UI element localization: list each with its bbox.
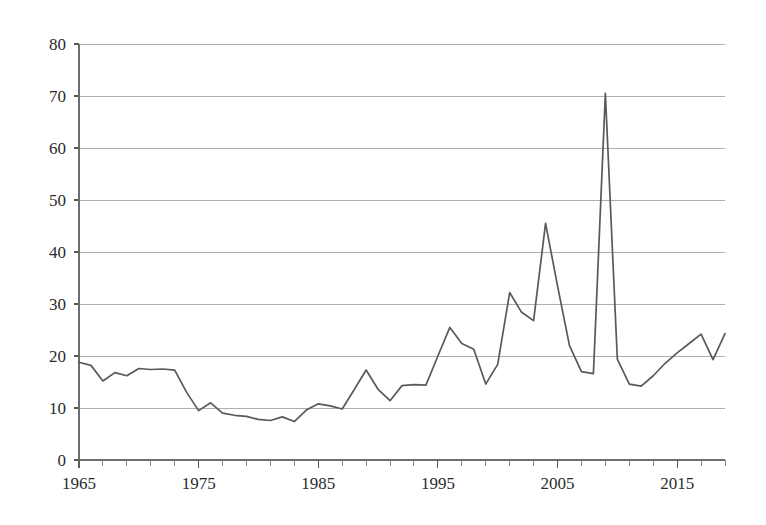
y-tick-label-40: 40 <box>49 243 66 262</box>
y-tick-label-20: 20 <box>49 347 66 366</box>
y-tick-label-60: 60 <box>49 139 66 158</box>
x-tick-label-1985: 1985 <box>301 474 335 493</box>
y-tick-labels-group: 01020304050607080 <box>49 35 66 470</box>
x-tick-label-1965: 1965 <box>62 474 96 493</box>
x-tick-label-1995: 1995 <box>421 474 455 493</box>
x-axis-group <box>79 460 725 468</box>
line-chart: 01020304050607080 1965197519851995200520… <box>0 0 766 525</box>
series-group <box>79 93 725 421</box>
x-tick-labels-group: 196519751985199520052015 <box>62 474 694 493</box>
x-tick-label-1975: 1975 <box>182 474 216 493</box>
gridlines-group <box>79 44 725 408</box>
y-tick-label-80: 80 <box>49 35 66 54</box>
series-line-1 <box>79 93 725 421</box>
y-axis-group <box>74 44 79 460</box>
y-tick-label-30: 30 <box>49 295 66 314</box>
y-tick-label-70: 70 <box>49 87 66 106</box>
x-tick-label-2005: 2005 <box>541 474 575 493</box>
y-tick-label-0: 0 <box>58 451 67 470</box>
y-tick-label-10: 10 <box>49 399 66 418</box>
x-tick-label-2015: 2015 <box>660 474 694 493</box>
y-tick-label-50: 50 <box>49 191 66 210</box>
chart-container: 01020304050607080 1965197519851995200520… <box>0 0 766 525</box>
